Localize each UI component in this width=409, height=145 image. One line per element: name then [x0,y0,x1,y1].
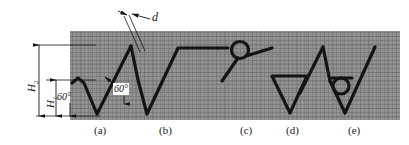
dimension-label-h2: H2 [26,81,40,92]
caption-d: (d) [286,125,299,136]
caption-c: (c) [240,125,252,136]
figure-container: H2 H1 d 60° 60° (a) (b) (c) (d) (e) [0,0,409,145]
caption-e: (e) [348,125,360,136]
caption-a: (a) [94,125,106,136]
angle-label-center: 60° [113,83,129,95]
angle-label-left: 60° [57,92,71,102]
dimension-label-d: d [152,11,158,23]
caption-b: (b) [159,125,172,136]
